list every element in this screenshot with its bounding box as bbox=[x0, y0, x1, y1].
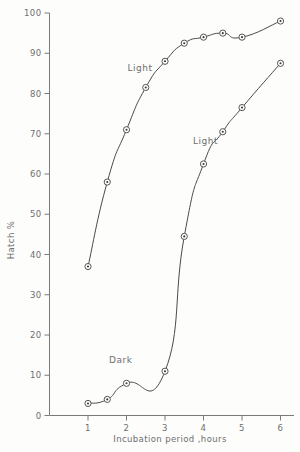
x-tick-label: 4 bbox=[201, 423, 207, 433]
x-axis: 123456 bbox=[50, 416, 295, 433]
y-tick-label: 80 bbox=[30, 89, 42, 99]
data-point-center bbox=[145, 86, 147, 88]
data-point-center bbox=[241, 107, 243, 109]
curve-annotations: LightLightDark bbox=[109, 63, 218, 365]
data-point-center bbox=[106, 398, 108, 400]
x-axis-title: Incubation period ,hours bbox=[113, 434, 227, 444]
y-axis-tick-labels: 0102030405060708090100 bbox=[24, 8, 41, 421]
data-point-center bbox=[241, 36, 243, 38]
y-tick-label: 100 bbox=[24, 8, 41, 18]
data-point-center bbox=[202, 36, 204, 38]
data-point-center bbox=[202, 163, 204, 165]
data-point-markers bbox=[85, 18, 284, 407]
x-tick-label: 2 bbox=[124, 423, 130, 433]
x-tick-label: 3 bbox=[162, 423, 168, 433]
data-point-center bbox=[183, 42, 185, 44]
y-axis: 0102030405060708090100 bbox=[24, 8, 49, 421]
data-point-center bbox=[164, 60, 166, 62]
curve-label: Light bbox=[193, 136, 218, 146]
data-point-center bbox=[125, 129, 127, 131]
data-point-center bbox=[222, 32, 224, 34]
figure-container: 0102030405060708090100 123456 LightLight… bbox=[0, 0, 300, 452]
y-tick-label: 50 bbox=[30, 209, 42, 219]
data-point-center bbox=[222, 131, 224, 133]
curve-1 bbox=[88, 21, 281, 267]
data-point-center bbox=[164, 370, 166, 372]
data-point-center bbox=[87, 402, 89, 404]
data-point-center bbox=[279, 62, 281, 64]
y-tick-label: 20 bbox=[30, 330, 42, 340]
data-point-center bbox=[106, 181, 108, 183]
y-tick-label: 0 bbox=[36, 411, 42, 421]
x-axis-ticks bbox=[88, 416, 281, 421]
x-tick-label: 1 bbox=[85, 423, 91, 433]
data-point-center bbox=[279, 20, 281, 22]
x-tick-label: 5 bbox=[239, 423, 245, 433]
hatch-vs-incubation-chart: 0102030405060708090100 123456 LightLight… bbox=[0, 0, 300, 452]
data-point-center bbox=[125, 382, 127, 384]
data-curves bbox=[88, 21, 281, 403]
y-tick-label: 10 bbox=[30, 370, 42, 380]
y-tick-label: 40 bbox=[30, 250, 42, 260]
curve-label: Light bbox=[127, 63, 152, 73]
data-point-center bbox=[87, 266, 89, 268]
y-axis-title: Hatch % bbox=[6, 221, 16, 260]
y-tick-label: 70 bbox=[30, 129, 42, 139]
x-axis-tick-labels: 123456 bbox=[85, 423, 283, 433]
y-tick-label: 90 bbox=[30, 48, 42, 58]
data-point-center bbox=[183, 235, 185, 237]
y-tick-label: 60 bbox=[30, 169, 42, 179]
curve-label: Dark bbox=[109, 355, 133, 365]
y-axis-ticks bbox=[45, 13, 50, 416]
x-tick-label: 6 bbox=[278, 423, 284, 433]
y-tick-label: 30 bbox=[30, 290, 42, 300]
